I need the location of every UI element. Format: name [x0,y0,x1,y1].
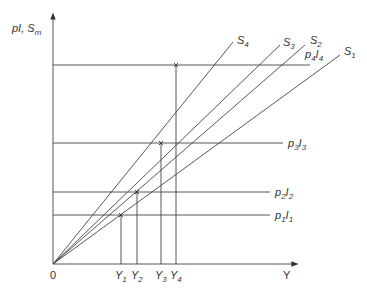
income-label-y1: Y1 [115,269,127,284]
income-label-y4: Y4 [170,269,182,284]
ray-s3 [53,45,280,264]
level-label-p1i1: p1I1 [274,209,293,224]
ray-label-s2: S2 [310,34,322,49]
ray-label-s4: S4 [237,34,249,49]
ray-label-s1: S1 [344,45,356,60]
x-axis-label: Y [283,269,291,281]
income-savings-diagram: pI, Sm 0 Y S4 S3 S2 S1 p4I4 p3I3 p2I2 p1… [0,0,367,292]
ray-label-s3: S3 [283,36,295,51]
y-axis-label: pI, Sm [11,22,42,37]
level-label-p4i4: p4I4 [304,48,324,63]
level-label-p2i2: p2I2 [274,186,294,201]
level-label-p3i3: p3I3 [287,137,307,152]
ray-s2 [53,45,305,264]
origin-label: 0 [50,269,56,281]
income-label-y2: Y2 [131,269,143,284]
income-label-y3: Y3 [155,269,167,284]
